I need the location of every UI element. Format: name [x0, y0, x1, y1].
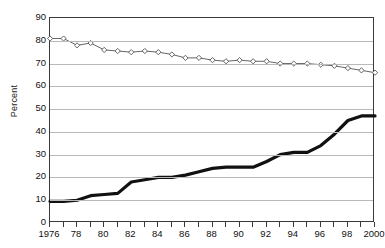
y-tick-label: 90 [20, 12, 46, 22]
x-tick-label: 80 [98, 228, 109, 239]
series-lower-series [50, 116, 375, 201]
y-tick-label: 0 [20, 217, 46, 227]
x-tick-label: 98 [342, 228, 353, 239]
data-point-marker [115, 48, 120, 53]
x-tick [320, 222, 321, 227]
x-tick [360, 222, 361, 227]
data-point-marker [237, 58, 242, 63]
x-tick [76, 222, 77, 227]
data-point-marker [210, 58, 215, 63]
x-tick [198, 222, 199, 227]
data-point-marker [196, 55, 201, 60]
y-tick-label: 70 [20, 58, 46, 68]
series-line [50, 116, 375, 201]
x-tick [117, 222, 118, 227]
data-point-marker [169, 52, 174, 57]
x-tick [103, 222, 104, 227]
x-tick [347, 222, 348, 227]
x-tick [225, 222, 226, 227]
x-tick [333, 222, 334, 227]
x-tick [171, 222, 172, 227]
data-point-marker [345, 66, 350, 71]
x-tick-label: 84 [152, 228, 163, 239]
x-tick [252, 222, 253, 227]
x-tick [212, 222, 213, 227]
x-tick [306, 222, 307, 227]
gridline [50, 132, 373, 133]
series-line [50, 39, 375, 73]
x-tick [184, 222, 185, 227]
y-tick-label: 30 [20, 149, 46, 159]
x-tick [63, 222, 64, 227]
gridline [50, 86, 373, 87]
y-tick-label: 10 [20, 194, 46, 204]
data-point-marker [142, 48, 147, 53]
x-tick-label: 90 [233, 228, 244, 239]
series-upper-series [47, 36, 377, 75]
gridline [50, 177, 373, 178]
x-tick [157, 222, 158, 227]
data-point-marker [359, 68, 364, 73]
gridline [50, 41, 373, 42]
data-point-marker [156, 50, 161, 55]
x-tick [144, 222, 145, 227]
data-point-marker [183, 55, 188, 60]
x-tick [90, 222, 91, 227]
data-point-marker [372, 70, 377, 75]
data-point-marker [74, 43, 79, 48]
y-tick-label: 60 [20, 81, 46, 91]
y-tick-label: 40 [20, 126, 46, 136]
x-tick-label: 78 [71, 228, 82, 239]
y-tick-label: 50 [20, 103, 46, 113]
y-axis-tick-labels: 0102030405060708090 [20, 0, 46, 248]
gridline [50, 155, 373, 156]
x-tick-label: 2000 [363, 228, 384, 239]
data-point-marker [102, 47, 107, 52]
x-tick [374, 222, 375, 227]
series-layer [50, 18, 375, 223]
x-tick [130, 222, 131, 227]
x-tick-label: 86 [179, 228, 190, 239]
gridline [50, 109, 373, 110]
x-axis-tick-labels: 197678808284868890929496982000 [0, 228, 384, 244]
x-tick-label: 94 [287, 228, 298, 239]
plot-area [49, 17, 374, 222]
x-tick-label: 82 [125, 228, 136, 239]
x-tick [239, 222, 240, 227]
x-tick-label: 96 [315, 228, 326, 239]
x-tick-label: 88 [206, 228, 217, 239]
data-point-marker [129, 50, 134, 55]
gridline [50, 64, 373, 65]
y-axis-title: Percent [9, 61, 19, 141]
x-tick [266, 222, 267, 227]
x-tick-label: 1976 [38, 228, 59, 239]
x-tick-label: 92 [260, 228, 271, 239]
x-tick [49, 222, 50, 227]
x-tick [293, 222, 294, 227]
y-tick-label: 80 [20, 35, 46, 45]
gridline [50, 200, 373, 201]
y-tick-label: 20 [20, 172, 46, 182]
x-tick [279, 222, 280, 227]
